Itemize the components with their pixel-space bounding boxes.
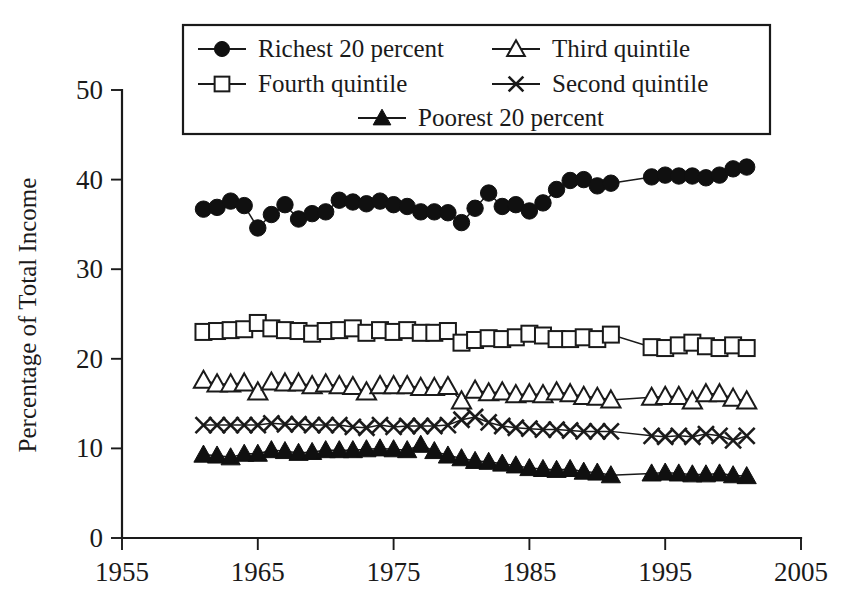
- marker-filled-circle: [440, 205, 456, 221]
- marker-open-square: [215, 77, 230, 92]
- chart-legend: Richest 20 percentThird quintileFourth q…: [183, 25, 770, 134]
- marker-filled-circle: [236, 197, 252, 213]
- marker-open-square: [739, 340, 755, 356]
- legend-entry-label: Richest 20 percent: [258, 35, 444, 62]
- marker-filled-circle: [250, 220, 266, 236]
- x-tick-label: 1995: [638, 557, 692, 587]
- y-tick-label: 0: [90, 523, 104, 553]
- x-tick-label: 1985: [502, 557, 556, 587]
- legend-entry-label: Second quintile: [552, 70, 708, 97]
- y-tick-label: 50: [76, 75, 103, 105]
- income-distribution-chart: 01020304050 195519651975198519952005 Per…: [0, 0, 862, 614]
- y-axis-title: Percentage of Total Income: [14, 178, 41, 453]
- marker-filled-circle: [214, 41, 229, 56]
- marker-filled-circle: [263, 206, 279, 222]
- y-tick-label: 40: [76, 165, 103, 195]
- marker-open-square: [603, 327, 619, 343]
- legend-entry-label: Fourth quintile: [258, 70, 407, 97]
- marker-filled-circle: [277, 196, 293, 212]
- x-tick-label: 1955: [95, 557, 149, 587]
- marker-filled-circle: [318, 204, 334, 220]
- y-tick-label: 10: [76, 433, 103, 463]
- legend-entry-label: Poorest 20 percent: [418, 104, 604, 131]
- marker-filled-circle: [738, 159, 754, 175]
- x-tick-label: 1965: [231, 557, 285, 587]
- marker-filled-circle: [603, 175, 619, 191]
- marker-filled-circle: [467, 200, 483, 216]
- x-tick-label: 1975: [367, 557, 421, 587]
- marker-filled-circle: [480, 185, 496, 201]
- chart-canvas: 01020304050 195519651975198519952005 Per…: [0, 0, 862, 614]
- y-tick-label: 30: [76, 254, 103, 284]
- x-tick-label: 2005: [774, 557, 828, 587]
- y-tick-label: 20: [76, 344, 103, 374]
- marker-filled-circle: [453, 214, 469, 230]
- legend-entry-label: Third quintile: [552, 35, 690, 62]
- marker-filled-circle: [535, 195, 551, 211]
